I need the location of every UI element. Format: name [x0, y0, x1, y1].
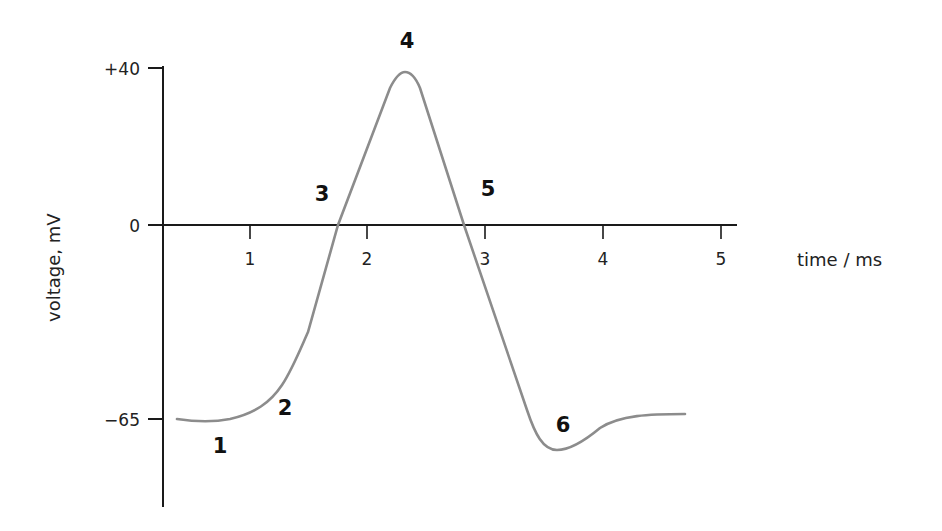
action-potential-chart: +40 0 −65 1 2 3 4 5 time / ms voltage, m… — [0, 0, 942, 531]
y-tick-label-minus65: −65 — [104, 410, 140, 430]
phase-label-5: 5 — [481, 177, 496, 201]
phase-labels: 1 2 3 4 5 6 — [213, 29, 571, 458]
x-ticks: 1 2 3 4 5 — [245, 225, 727, 269]
x-tick-label-1: 1 — [245, 249, 256, 269]
phase-label-2: 2 — [278, 396, 293, 420]
y-tick-label-40: +40 — [104, 59, 140, 79]
x-tick-label-2: 2 — [362, 249, 373, 269]
y-axis-title: voltage, mV — [43, 213, 64, 322]
x-tick-label-4: 4 — [598, 249, 609, 269]
x-tick-label-5: 5 — [716, 249, 727, 269]
phase-label-4: 4 — [400, 29, 415, 53]
phase-label-6: 6 — [556, 413, 571, 437]
y-tick-label-0: 0 — [129, 216, 140, 236]
phase-label-3: 3 — [315, 182, 330, 206]
y-ticks: +40 0 −65 — [104, 59, 163, 430]
phase-label-1: 1 — [213, 434, 228, 458]
x-axis-title: time / ms — [797, 249, 882, 270]
x-tick-label-3: 3 — [480, 249, 491, 269]
